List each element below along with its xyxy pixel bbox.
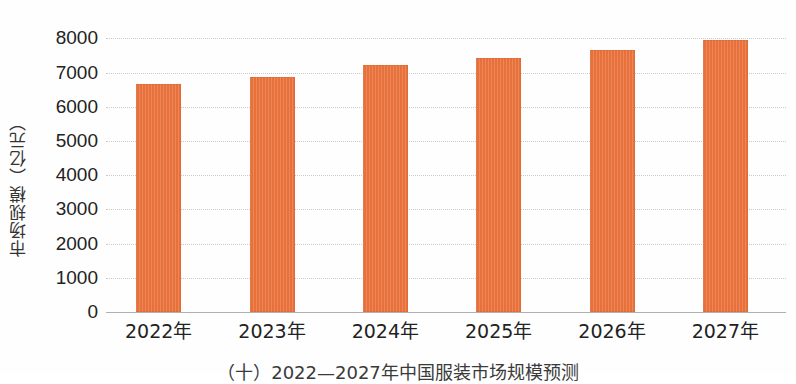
y-tick-label-8000: 8000 <box>56 27 98 49</box>
bar-2024年 <box>363 65 408 312</box>
bars-layer <box>106 20 786 312</box>
y-axis-title-label: 市场规模（亿元） <box>5 113 30 257</box>
x-tick-label-2023年: 2023年 <box>238 316 305 343</box>
x-axis-tick-labels: 2022年2023年2024年2025年2026年2027年 <box>106 316 786 346</box>
y-tick-label-4000: 4000 <box>56 164 98 186</box>
x-tick-label-2026年: 2026年 <box>578 316 645 343</box>
y-tick-label-6000: 6000 <box>56 96 98 118</box>
y-tick-label-5000: 5000 <box>56 130 98 152</box>
bar-2026年 <box>590 50 635 312</box>
bar-2022年 <box>136 84 181 312</box>
y-tick-label-0: 0 <box>87 301 98 323</box>
x-axis-line <box>106 312 786 313</box>
x-tick-label-2025年: 2025年 <box>465 316 532 343</box>
chart-caption: （十）2022—2027年中国服装市场规模预测 <box>0 358 796 384</box>
y-tick-label-2000: 2000 <box>56 233 98 255</box>
bar-2025年 <box>476 58 521 312</box>
bar-2027年 <box>703 40 748 312</box>
x-tick-label-2024年: 2024年 <box>352 316 419 343</box>
x-tick-label-2027年: 2027年 <box>692 316 759 343</box>
x-tick-label-2022年: 2022年 <box>125 316 192 343</box>
y-axis-tick-labels: 0 1000 2000 3000 4000 5000 6000 7000 800… <box>28 0 106 374</box>
y-tick-label-7000: 7000 <box>56 62 98 84</box>
plot-area <box>106 20 786 312</box>
bar-2023年 <box>250 77 295 312</box>
y-tick-label-3000: 3000 <box>56 198 98 220</box>
y-tick-label-1000: 1000 <box>56 267 98 289</box>
